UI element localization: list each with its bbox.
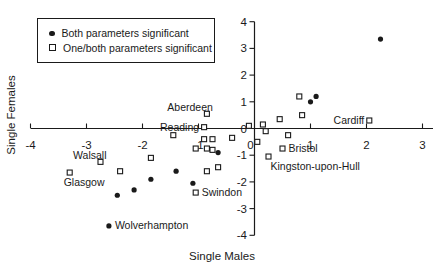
data-point-open-square [230, 135, 235, 140]
data-point-filled-circle [132, 187, 137, 192]
data-point-open-square [216, 165, 221, 170]
point-label: Glasgow [64, 176, 105, 188]
y-tick-label: -4 [237, 229, 248, 241]
data-point-filled-circle [314, 94, 319, 99]
data-point-open-square [148, 155, 153, 160]
x-axis-title: Single Males [189, 250, 255, 262]
data-point-open-square [255, 139, 260, 144]
data-point-open-square [204, 146, 209, 151]
point-label: Kingston-upon-Hull [271, 160, 360, 172]
legend-item-one-both-significant: One/both parameters significant [49, 43, 214, 54]
data-point-filled-circle [106, 223, 111, 228]
data-point-filled-circle [308, 99, 313, 104]
data-point-open-square [210, 147, 215, 152]
y-tick-label: -3 [237, 203, 247, 215]
data-point-open-square [202, 137, 207, 142]
data-point-open-square [263, 129, 268, 134]
point-label: Cardiff [334, 114, 365, 126]
y-tick-label: 2 [241, 69, 247, 81]
data-point-open-square [286, 133, 291, 138]
legend-label: Both parameters significant [62, 28, 189, 39]
y-tick-label: 1 [241, 96, 247, 108]
figure: -4-3-2-10123-4-3-2-101234WolverhamptonAb… [0, 0, 437, 277]
data-point-filled-circle [174, 169, 179, 174]
y-axis-title: Single Females [5, 75, 17, 154]
data-point-open-square [67, 170, 72, 175]
data-point-open-square [300, 113, 305, 118]
data-point-open-square [260, 122, 265, 127]
point-label: Bristol [289, 142, 318, 154]
data-point-open-square [193, 190, 198, 195]
legend-item-both-significant: Both parameters significant [49, 28, 214, 39]
x-tick-label: -2 [137, 139, 147, 151]
data-point-open-square [171, 133, 176, 138]
legend-label: One/both parameters significant [63, 43, 212, 54]
data-point-filled-circle [378, 36, 383, 41]
x-tick-label: -4 [25, 139, 36, 151]
data-point-open-square [118, 169, 123, 174]
data-point-filled-circle [115, 193, 120, 198]
data-point-open-square [277, 117, 282, 122]
point-label: Swindon [202, 186, 242, 198]
data-point-open-square [297, 94, 302, 99]
x-tick-label: 3 [419, 139, 425, 151]
legend: Both parameters significant One/both par… [37, 18, 215, 63]
x-tick-label: 0 [247, 139, 253, 151]
open-square-icon [49, 44, 56, 51]
x-tick-label: 2 [363, 139, 369, 151]
data-point-filled-circle [216, 150, 221, 155]
y-tick-label: 4 [241, 16, 248, 28]
data-point-open-square [367, 118, 372, 123]
data-point-open-square [193, 146, 198, 151]
y-tick-label: 3 [241, 42, 247, 54]
y-tick-label: -1 [237, 149, 247, 161]
data-point-open-square [204, 169, 209, 174]
point-label: Wolverhampton [115, 219, 189, 231]
data-point-open-square [210, 137, 215, 142]
point-label: Reading [160, 121, 199, 133]
data-point-open-square [202, 125, 207, 130]
filled-circle-icon [49, 31, 55, 37]
point-label: Walsall [73, 149, 106, 161]
data-point-filled-circle [148, 177, 153, 182]
data-point-open-square [266, 154, 271, 159]
data-point-filled-circle [190, 181, 195, 186]
point-label: Aberdeen [167, 101, 213, 113]
data-point-open-square [246, 123, 251, 128]
data-point-open-square [280, 146, 285, 151]
